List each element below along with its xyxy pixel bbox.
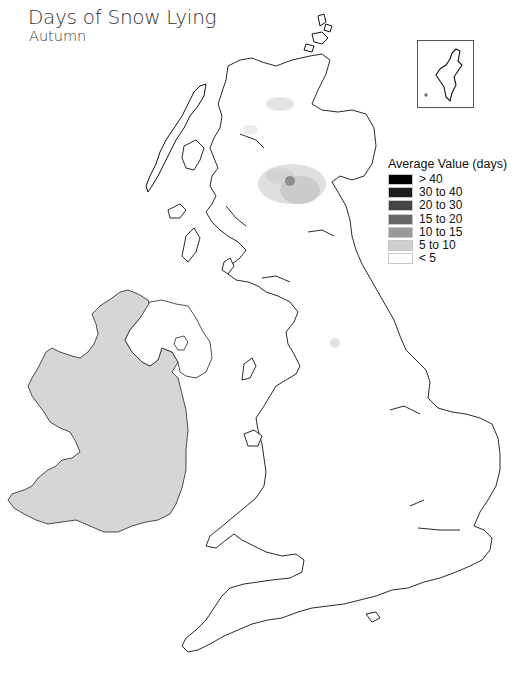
legend-label: 20 to 30 <box>419 199 462 212</box>
outer-hebrides <box>146 84 206 192</box>
legend-label: > 40 <box>419 173 443 186</box>
legend-item: 5 to 10 <box>388 239 507 252</box>
legend-item: 30 to 40 <box>388 186 507 199</box>
legend: Average Value (days) > 40 30 to 40 20 to… <box>388 157 507 265</box>
legend-title: Average Value (days) <box>388 157 507 171</box>
legend-label: 30 to 40 <box>419 186 462 199</box>
isle-of-skye <box>182 140 204 170</box>
isle-of-mull <box>168 204 186 218</box>
legend-label: 15 to 20 <box>419 213 462 226</box>
legend-label: 5 to 10 <box>419 239 456 252</box>
legend-swatch <box>388 187 413 198</box>
legend-label: < 5 <box>419 252 436 265</box>
legend-swatch <box>388 240 413 251</box>
legend-item: 10 to 15 <box>388 226 507 239</box>
shetland-map <box>418 41 473 107</box>
legend-item: < 5 <box>388 252 507 265</box>
orkney-islands <box>304 14 332 52</box>
legend-label: 10 to 15 <box>419 226 462 239</box>
legend-item: > 40 <box>388 173 507 186</box>
shetland-inset <box>417 40 474 108</box>
legend-swatch <box>388 174 413 185</box>
legend-item: 15 to 20 <box>388 213 507 226</box>
isle-of-man <box>242 358 256 380</box>
great-britain-landmass <box>182 54 500 652</box>
legend-swatch <box>388 200 413 211</box>
legend-item: 20 to 30 <box>388 199 507 212</box>
isle-of-wight <box>366 612 380 622</box>
legend-swatch <box>388 253 413 264</box>
islay-jura <box>182 228 200 262</box>
legend-swatch <box>388 227 413 238</box>
legend-swatch <box>388 214 413 225</box>
